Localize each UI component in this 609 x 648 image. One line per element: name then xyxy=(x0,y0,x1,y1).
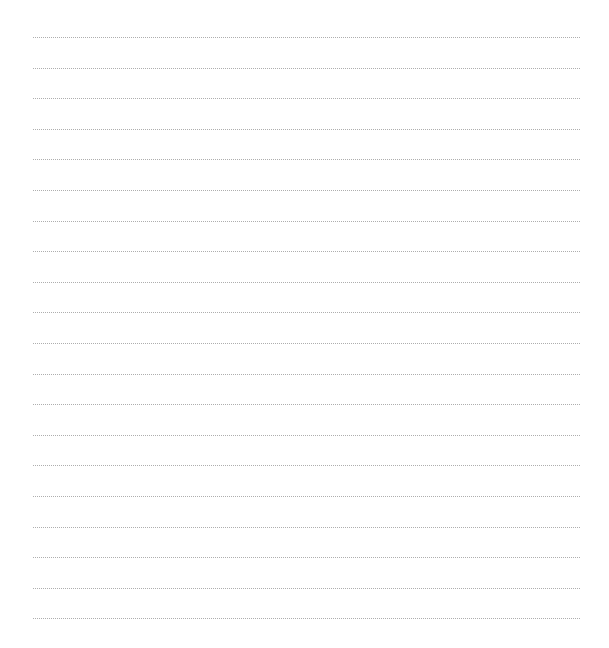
ruled-line xyxy=(33,37,580,38)
ruled-line xyxy=(33,618,580,619)
ruled-line xyxy=(33,251,580,252)
ruled-line xyxy=(33,557,580,558)
ruled-line xyxy=(33,282,580,283)
ruled-line xyxy=(33,129,580,130)
ruled-line xyxy=(33,404,580,405)
ruled-line xyxy=(33,221,580,222)
ruled-line xyxy=(33,527,580,528)
ruled-line xyxy=(33,190,580,191)
ruled-line xyxy=(33,496,580,497)
ruled-line xyxy=(33,68,580,69)
ruled-line xyxy=(33,465,580,466)
lined-paper-sheet xyxy=(0,0,609,648)
ruled-line xyxy=(33,343,580,344)
ruled-line xyxy=(33,312,580,313)
ruled-line xyxy=(33,374,580,375)
ruled-line xyxy=(33,98,580,99)
ruled-line xyxy=(33,435,580,436)
ruled-line xyxy=(33,159,580,160)
ruled-line xyxy=(33,588,580,589)
